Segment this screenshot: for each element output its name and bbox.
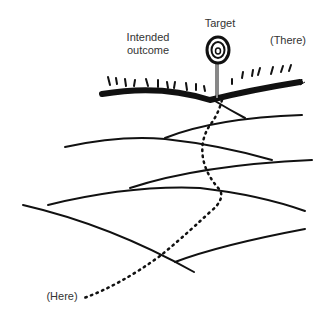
target-label: Target	[200, 17, 240, 30]
intended-outcome-label: Intended outcome	[118, 31, 178, 57]
there-label: (There)	[266, 34, 310, 47]
target-icon	[207, 37, 229, 98]
here-label: (Here)	[44, 290, 80, 303]
intended-outcome-line1: Intended	[118, 31, 178, 44]
intended-outcome-ridge	[102, 82, 300, 100]
intended-outcome-line2: outcome	[118, 44, 178, 57]
dotted-route	[84, 100, 222, 298]
hill-lines	[23, 101, 312, 272]
